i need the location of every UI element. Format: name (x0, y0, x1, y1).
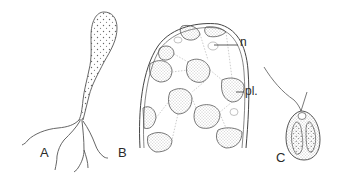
panel-label-b: B (118, 146, 127, 159)
nucleus (208, 42, 218, 50)
annotation-plastid: pl. (245, 85, 258, 97)
rhizoid (74, 121, 84, 172)
plastid (194, 105, 220, 129)
annotation-nucleus: n (240, 36, 247, 48)
panel-c-zoospore (264, 67, 320, 160)
panel-b-cell (140, 24, 249, 152)
plastid (143, 107, 156, 129)
rhizoid (22, 120, 79, 145)
plastid (149, 61, 172, 82)
rhizoid (83, 121, 108, 158)
chromatophore (292, 122, 303, 154)
biology-figure (0, 0, 346, 188)
panel-a-organism (22, 12, 117, 172)
plastid (216, 128, 242, 148)
panel-label-c: C (276, 151, 285, 164)
flagellum-icon (264, 67, 301, 111)
flagellum-short (301, 92, 307, 111)
nucleus (230, 109, 238, 116)
plastid (159, 46, 175, 60)
plastid (221, 78, 244, 102)
plastid (147, 133, 172, 152)
nucleus (174, 37, 182, 43)
plastid (168, 89, 192, 114)
plastid (186, 59, 210, 82)
vesicle-body (79, 12, 117, 120)
rhizoid (84, 150, 88, 168)
zoospore-vacuole (298, 113, 306, 120)
plastid (205, 27, 226, 37)
plastid (180, 25, 200, 40)
plastids (143, 25, 244, 152)
panel-label-a: A (40, 146, 49, 159)
